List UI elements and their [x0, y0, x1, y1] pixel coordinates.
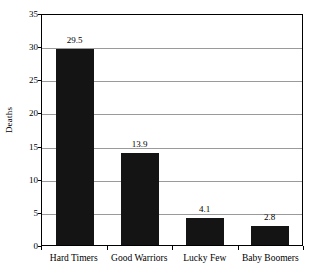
bar-value-label: 4.1: [199, 205, 210, 214]
bar-value-label: 13.9: [132, 140, 148, 149]
y-axis-tick-label: 20: [16, 109, 38, 118]
y-axis-tick-label: 25: [16, 76, 38, 85]
y-axis-tick-label: 15: [16, 142, 38, 151]
bar: 2.8: [251, 226, 289, 245]
y-axis-tick-label: 35: [16, 10, 38, 19]
y-axis-tick-label: 0: [16, 242, 38, 251]
bar-value-label: 29.5: [67, 36, 83, 45]
bar-chart: Deaths 05101520253035 29.513.94.12.8 Har…: [0, 0, 313, 278]
y-axis-tick-label: 10: [16, 175, 38, 184]
bar: 13.9: [121, 153, 159, 245]
x-axis-category-label: Good Warriors: [107, 252, 173, 270]
plot-area: 29.513.94.12.8: [41, 14, 303, 246]
x-axis-tick-mark: [303, 246, 304, 250]
bar-value-label: 2.8: [264, 213, 275, 222]
y-axis-title-text: Deaths: [4, 107, 14, 133]
x-axis-category-labels: Hard TimersGood WarriorsLucky FewBaby Bo…: [41, 252, 303, 270]
bars-container: 29.513.94.12.8: [42, 15, 302, 245]
x-axis-category-label: Baby Boomers: [238, 252, 304, 270]
bar-slot: 13.9: [107, 15, 172, 245]
x-axis-tick-mark: [107, 246, 108, 250]
bar: 4.1: [186, 218, 224, 245]
x-axis-tick-mark: [41, 246, 42, 250]
x-axis-category-label: Lucky Few: [172, 252, 238, 270]
x-axis-tick-mark: [172, 246, 173, 250]
bar: 29.5: [56, 49, 94, 245]
x-axis-tick-marks: [41, 246, 303, 251]
x-axis-tick-mark: [238, 246, 239, 250]
bar-slot: 2.8: [237, 15, 302, 245]
y-axis-tick-labels: 05101520253035: [16, 14, 38, 246]
bar-slot: 4.1: [172, 15, 237, 245]
y-axis-tick-label: 30: [16, 43, 38, 52]
bar-slot: 29.5: [42, 15, 107, 245]
y-axis-tick-label: 5: [16, 208, 38, 217]
x-axis-category-label: Hard Timers: [41, 252, 107, 270]
